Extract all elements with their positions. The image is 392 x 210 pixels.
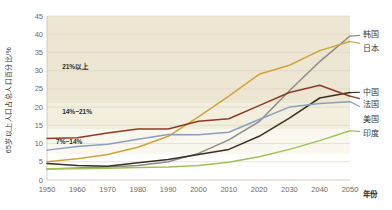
- legend-label-中国: 中国: [363, 87, 379, 97]
- band-21%以上: [47, 16, 350, 103]
- legend-label-韩国: 韩国: [363, 29, 379, 39]
- x-tick-1990: 1990: [160, 185, 177, 194]
- legend-label-法国: 法国: [363, 99, 379, 109]
- y-tick-30: 30: [35, 66, 43, 75]
- y-tick-10: 10: [35, 139, 43, 148]
- annotation-7%~14%: 7%~14%: [56, 138, 82, 145]
- x-tick-1970: 1970: [99, 185, 116, 194]
- y-axis-label: 65岁以上人口占总人口百分比/%: [4, 47, 13, 153]
- y-tick-20: 20: [35, 103, 43, 112]
- chart-container: 051015202530354045 195019601970198019902…: [0, 0, 392, 210]
- y-tick-45: 45: [35, 12, 43, 21]
- x-tick-2040: 2040: [311, 185, 328, 194]
- annotation-21%以上: 21%以上: [62, 62, 89, 70]
- y-tick-25: 25: [35, 84, 43, 93]
- annotation-14%~21%: 14%~21%: [62, 108, 92, 115]
- x-tick-2030: 2030: [281, 185, 298, 194]
- threshold-bands: [47, 16, 350, 180]
- x-tick-2010: 2010: [220, 185, 237, 194]
- y-tick-40: 40: [35, 30, 43, 39]
- x-tick-2050: 2050: [342, 185, 359, 194]
- x-tick-1980: 1980: [130, 185, 147, 194]
- legend-label-美国: 美国: [363, 114, 379, 124]
- band-7%~14%: [47, 129, 350, 155]
- legend-label-印度: 印度: [363, 128, 379, 138]
- y-tick-15: 15: [35, 121, 43, 130]
- x-tick-1950: 1950: [39, 185, 56, 194]
- legend-connector-印度: [350, 131, 360, 132]
- population-aging-line-chart: 051015202530354045 195019601970198019902…: [0, 0, 392, 210]
- y-tick-5: 5: [39, 157, 43, 166]
- legend-connector-韩国: [350, 35, 360, 36]
- legend-label-日本: 日本: [363, 43, 379, 53]
- x-tick-1960: 1960: [69, 185, 86, 194]
- y-tick-0: 0: [39, 176, 43, 185]
- x-tick-2020: 2020: [251, 185, 268, 194]
- y-tick-35: 35: [35, 48, 43, 57]
- x-axis-label: 年份: [363, 189, 378, 199]
- x-tick-2000: 2000: [190, 185, 207, 194]
